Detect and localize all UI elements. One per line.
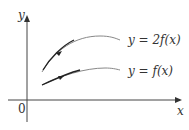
curve-label-2f: y = 2f(x) [128,33,181,47]
curve-label-f: y = f(x) [128,64,173,78]
x-axis-label: x [177,104,184,118]
x-axis [8,97,182,103]
origin-label: 0 [18,102,26,116]
y-axis-label: y [18,8,25,22]
curve-2f [42,36,120,72]
x-axis-arrow-icon [175,97,182,103]
curve-f [42,68,120,85]
